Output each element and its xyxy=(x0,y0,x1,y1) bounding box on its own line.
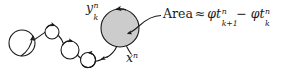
label-y-subscript: k xyxy=(94,14,99,22)
annotation-term-1-subscript: k+1 xyxy=(222,20,238,28)
trajectory-segment-2 xyxy=(58,36,63,45)
annotation-term-1: φtnk+1 xyxy=(207,6,221,21)
annotation-term-2: φtnk xyxy=(249,6,265,21)
label-y-superscript-n-subscript-k: ynk xyxy=(86,2,93,15)
label-x-superscript: n xyxy=(133,51,138,60)
shaded-area-circle xyxy=(101,9,139,47)
annotation-term-1-superscript: n xyxy=(222,8,227,16)
annotation-term-1-base: t xyxy=(216,6,221,21)
label-x-superscript-n: xn xyxy=(126,52,138,65)
annotation-approx-symbol: ≈ xyxy=(193,6,207,21)
label-y-base: y xyxy=(86,0,93,15)
annotation-area-word: Area xyxy=(163,6,193,21)
label-x-base: x xyxy=(126,50,133,65)
annotation-term-2-subscript: k xyxy=(265,20,270,28)
annotation-term-2-superscript: n xyxy=(265,8,270,16)
trajectory-segment-5 xyxy=(107,46,117,57)
annotation-term-1-phi: φ xyxy=(207,6,216,21)
area-annotation: Area≈φtnk+1−φtnk xyxy=(163,8,264,21)
annotation-term-2-base: t xyxy=(259,6,264,21)
label-y-superscript: n xyxy=(94,2,99,10)
figure-canvas: ynk xn Area≈φtnk+1−φtnk xyxy=(0,0,294,76)
